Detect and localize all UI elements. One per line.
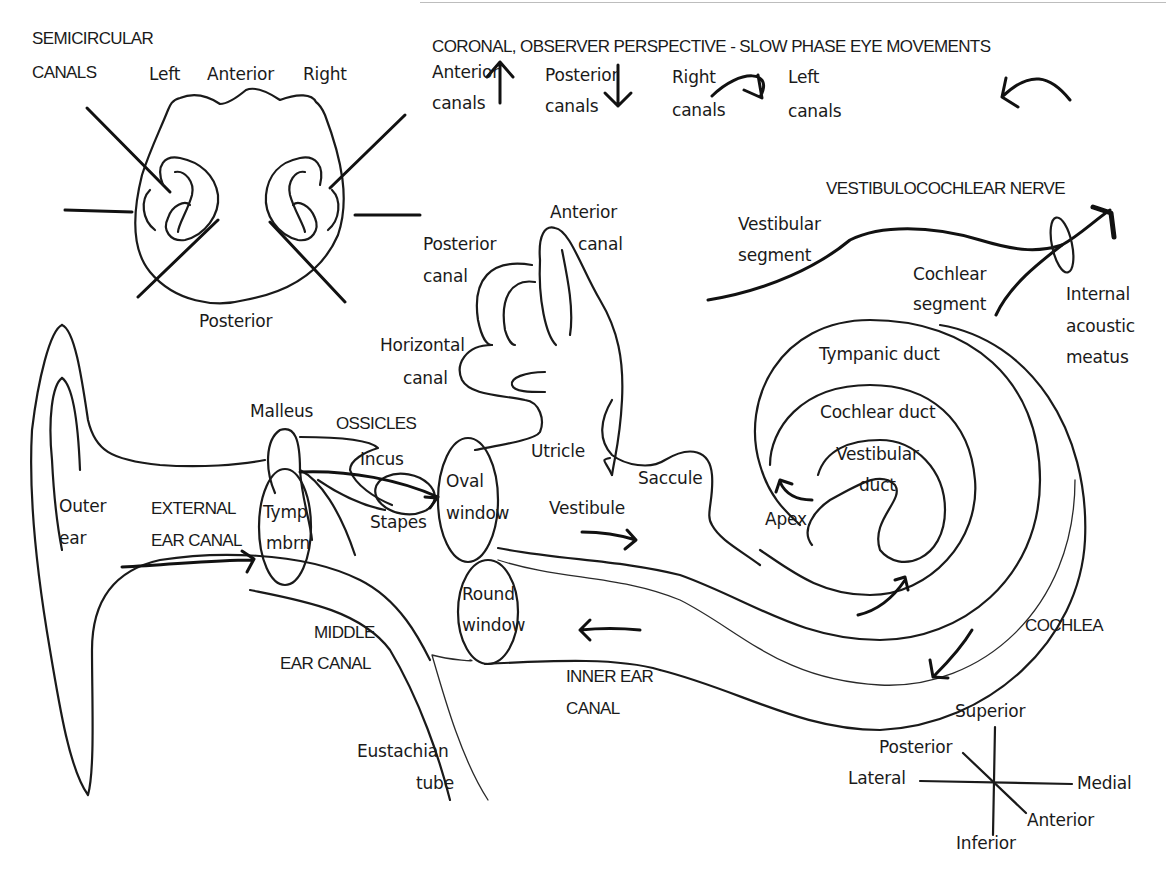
compass-inferior: Inferior bbox=[956, 832, 1016, 855]
meatus-line3: meatus bbox=[1066, 346, 1129, 369]
label-posterior-head: Posterior bbox=[199, 310, 272, 333]
compass-medial: Medial bbox=[1077, 772, 1132, 795]
eye-movements-title: CORONAL, OBSERVER PERSPECTIVE - SLOW PHA… bbox=[432, 36, 990, 59]
compass-anterior: Anterior bbox=[1027, 809, 1094, 832]
semicircular-title-line1: SEMICIRCULAR bbox=[32, 28, 153, 51]
utricle-label: Utricle bbox=[531, 440, 585, 463]
cochlear-segment-line2: segment bbox=[913, 293, 986, 316]
label-right: Right bbox=[303, 63, 347, 86]
head-coronal-drawing bbox=[65, 89, 420, 303]
cochlear-duct-label: Cochlear duct bbox=[820, 401, 935, 424]
oval-window-line1: Oval bbox=[446, 470, 484, 493]
stapes-label: Stapes bbox=[370, 511, 427, 534]
middle-ear-canal-line1: MIDDLE bbox=[314, 622, 375, 645]
horizontal-canal-line2: canal bbox=[403, 367, 448, 390]
round-window-line2: window bbox=[462, 614, 525, 637]
cochlear-segment-line1: Cochlear bbox=[913, 263, 986, 286]
label-left: Left bbox=[149, 63, 180, 86]
saccule-label: Saccule bbox=[638, 467, 702, 490]
round-window-line1: Round bbox=[462, 583, 515, 606]
eye-left-line1: Left bbox=[788, 66, 819, 89]
ear-anatomy-diagram: SEMICIRCULAR CANALS Left Anterior Right … bbox=[0, 0, 1166, 875]
outer-ear-drawing bbox=[31, 325, 430, 795]
diagram-drawing bbox=[0, 0, 1166, 875]
anterior-canal-line2: canal bbox=[578, 233, 623, 256]
vestibular-duct-line2: duct bbox=[859, 474, 896, 497]
outer-ear-line2: ear bbox=[59, 527, 86, 550]
cochlea-label: COCHLEA bbox=[1025, 615, 1103, 638]
vestibular-segment-line2: segment bbox=[738, 244, 811, 267]
meatus-line2: acoustic bbox=[1066, 315, 1135, 338]
eye-anterior-line1: Anterior bbox=[432, 61, 499, 84]
semicircular-title-line2: CANALS bbox=[32, 62, 96, 85]
compass-lateral: Lateral bbox=[848, 767, 906, 790]
incus-label: Incus bbox=[360, 448, 404, 471]
anterior-canal-line1: Anterior bbox=[550, 201, 617, 224]
posterior-canal-line2: canal bbox=[423, 265, 468, 288]
vestibular-segment-line1: Vestibular bbox=[738, 213, 821, 236]
horizontal-canal-line1: Horizontal bbox=[380, 334, 465, 357]
vestibule-label: Vestibule bbox=[549, 497, 625, 520]
eye-right-line2: canals bbox=[672, 99, 725, 122]
external-ear-canal-line2: EAR CANAL bbox=[151, 530, 242, 553]
eye-posterior-line1: Posterior bbox=[545, 64, 618, 87]
meatus-line1: Internal bbox=[1066, 283, 1130, 306]
inner-ear-canal-line2: CANAL bbox=[566, 698, 620, 721]
eye-left-line2: canals bbox=[788, 100, 841, 123]
eustachian-tube-line1: Eustachian bbox=[357, 740, 449, 763]
malleus-label: Malleus bbox=[250, 400, 313, 423]
inner-ear-canal-line1: INNER EAR bbox=[566, 666, 653, 689]
apex-label: Apex bbox=[765, 508, 807, 531]
compass-posterior: Posterior bbox=[879, 736, 952, 759]
outer-ear-line1: Outer bbox=[59, 495, 106, 518]
oval-window-line2: window bbox=[446, 502, 509, 525]
nerve-title: VESTIBULOCOCHLEAR NERVE bbox=[826, 178, 1065, 201]
eye-anterior-line2: canals bbox=[432, 92, 485, 115]
label-anterior-head: Anterior bbox=[207, 63, 274, 86]
eye-right-line1: Right bbox=[672, 66, 716, 89]
middle-ear-canal-line2: EAR CANAL bbox=[280, 653, 371, 676]
vestibular-duct-line1: Vestibular bbox=[836, 443, 919, 466]
tymp-membrane-line1: Tymp bbox=[263, 501, 307, 524]
compass-superior: Superior bbox=[955, 700, 1025, 723]
posterior-canal-line1: Posterior bbox=[423, 233, 496, 256]
eye-posterior-line2: canals bbox=[545, 95, 598, 118]
tymp-membrane-line2: mbrn bbox=[266, 532, 310, 555]
ossicles-label: OSSICLES bbox=[336, 413, 416, 436]
external-ear-canal-line1: EXTERNAL bbox=[151, 498, 236, 521]
tympanic-duct-label: Tympanic duct bbox=[819, 343, 940, 366]
eustachian-tube-line2: tube bbox=[416, 772, 454, 795]
